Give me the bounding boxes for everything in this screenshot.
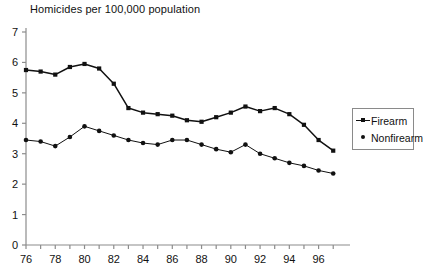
svg-text:1: 1: [12, 209, 18, 221]
svg-text:82: 82: [108, 253, 120, 265]
legend-item-nonfirearm: Nonfirearm: [356, 129, 411, 146]
svg-text:84: 84: [137, 253, 149, 265]
svg-text:6: 6: [12, 56, 18, 68]
legend-label-firearm: Firearm: [370, 115, 407, 127]
chart-legend: Firearm Nonfirearm: [352, 108, 414, 150]
legend-line-marker-icon: [356, 115, 370, 126]
svg-text:3: 3: [12, 148, 18, 160]
svg-text:80: 80: [78, 253, 90, 265]
y-axis: 01234567: [12, 26, 26, 251]
x-axis: 7678808284868890929496: [20, 245, 350, 265]
svg-text:7: 7: [12, 26, 18, 38]
legend-label-nonfirearm: Nonfirearm: [370, 132, 423, 144]
svg-text:4: 4: [12, 117, 18, 129]
svg-text:2: 2: [12, 178, 18, 190]
svg-text:86: 86: [166, 253, 178, 265]
svg-text:94: 94: [283, 253, 295, 265]
legend-dot-marker-icon: [356, 132, 370, 143]
svg-text:0: 0: [12, 239, 18, 251]
svg-text:76: 76: [20, 253, 32, 265]
svg-text:92: 92: [254, 253, 266, 265]
svg-text:90: 90: [225, 253, 237, 265]
svg-text:78: 78: [49, 253, 61, 265]
series-nonfirearm: [24, 124, 336, 176]
legend-item-firearm: Firearm: [356, 112, 411, 129]
data-series-layer: [24, 62, 336, 176]
svg-text:96: 96: [312, 253, 324, 265]
svg-text:5: 5: [12, 87, 18, 99]
svg-text:88: 88: [195, 253, 207, 265]
